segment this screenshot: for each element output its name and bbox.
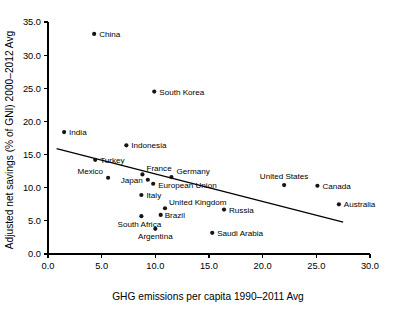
y-tick-label: 10.0 [23,183,41,193]
point-label: United States [260,172,309,181]
x-tick-label: 30.0 [361,261,379,271]
point-marker [106,176,110,180]
data-point: Mexico [77,167,110,180]
point-marker [210,231,214,235]
data-point: Indonesia [124,141,167,150]
point-label: Japan [121,176,143,185]
point-marker [169,175,173,179]
point-marker [152,90,156,94]
x-tick-label: 20.0 [254,261,272,271]
point-marker [139,193,143,197]
point-marker [62,130,66,134]
data-point: Italy [139,191,162,200]
x-axis-title: GHG emissions per capita 1990–2011 Avg [112,291,304,302]
data-point: Japan [121,176,150,185]
point-marker [222,207,226,211]
point-label: European Union [158,181,217,190]
point-label: India [69,128,87,137]
y-tick-label: 5.0 [28,216,41,226]
point-label: Argentina [138,232,173,241]
point-marker [139,214,143,218]
point-label: Brazil [165,211,185,220]
point-marker [93,158,97,162]
data-point: United States [260,172,309,187]
data-point: Canada [315,182,351,191]
point-label: Mexico [77,167,103,176]
data-point: Saudi Arabia [210,229,263,238]
data-point: Brazil [159,211,186,220]
point-marker [163,206,167,210]
data-point: United Kingdom [163,198,227,210]
point-label: Germany [176,167,210,176]
point-marker [146,178,150,182]
point-label: Italy [146,191,162,200]
x-tick-label: 10.0 [146,261,164,271]
point-marker [159,213,163,217]
data-point: Turkey [93,156,125,165]
y-tick-label: 20.0 [23,117,41,127]
point-label: Turkey [100,156,125,165]
plot-area: 0.05.010.015.020.025.030.00.05.010.015.0… [0,0,415,312]
data-points: ChinaSouth KoreaIndiaIndonesiaTurkeyMexi… [62,30,376,241]
scatter-chart: 0.05.010.015.020.025.030.00.05.010.015.0… [0,0,415,312]
data-point: South Korea [152,88,205,97]
point-marker [92,32,96,36]
x-tick-label: 5.0 [95,261,108,271]
point-marker [282,183,286,187]
point-marker [153,227,157,231]
x-tick-label: 0.0 [42,261,55,271]
point-label: Russia [229,206,254,215]
point-label: Australia [344,200,376,209]
y-tick-label: 15.0 [23,150,41,160]
data-point: China [92,30,121,39]
point-label: Saudi Arabia [217,229,263,238]
point-marker [315,184,319,188]
y-axis-title: Adjusted net savings (% of GNI) 2000–201… [4,30,15,249]
point-marker [337,202,341,206]
axis-ticks: 0.05.010.015.020.025.030.00.05.010.015.0… [23,17,379,271]
x-tick-label: 15.0 [200,261,218,271]
y-tick-label: 35.0 [23,17,41,27]
data-point: European Union [151,181,217,190]
data-point: Russia [222,206,254,215]
data-point: India [62,128,87,137]
point-label: United Kingdom [169,198,227,207]
point-label: China [99,30,121,39]
point-label: France [146,164,172,173]
point-label: Canada [322,182,351,191]
axis-lines [48,22,370,254]
y-tick-label: 30.0 [23,51,41,61]
point-label: Indonesia [131,141,167,150]
x-tick-label: 25.0 [307,261,325,271]
y-tick-label: 25.0 [23,84,41,94]
data-point: Australia [337,200,376,209]
point-marker [151,182,155,186]
data-point: Germany [169,167,210,179]
y-tick-label: 0.0 [28,249,41,259]
point-marker [124,143,128,147]
point-label: South Korea [159,88,204,97]
